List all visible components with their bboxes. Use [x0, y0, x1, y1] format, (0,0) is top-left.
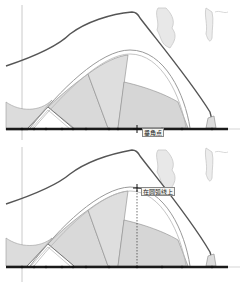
shell-segment [118, 82, 188, 128]
model-canvas[interactable] [0, 0, 245, 142]
viewport-panel-top[interactable]: 垂角点 [0, 0, 245, 142]
end-column [206, 116, 216, 128]
tree-sketch [215, 11, 228, 12]
tree-sketch [157, 150, 175, 190]
viewport-panel-bottom[interactable]: 在圆弧线上 [0, 142, 245, 284]
tree-sketch [215, 151, 228, 152]
end-column [206, 254, 216, 266]
inference-tooltip: 在圆弧线上 [141, 187, 175, 196]
tree-sketch [205, 148, 212, 181]
inference-tooltip: 垂角点 [142, 128, 164, 137]
model-canvas[interactable] [0, 142, 245, 284]
tree-sketch [205, 8, 212, 41]
crosshair-move-icon [133, 184, 141, 192]
shell-segment [118, 220, 188, 266]
